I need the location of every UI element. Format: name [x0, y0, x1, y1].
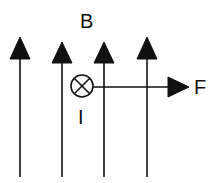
current-into-page-icon	[71, 75, 93, 97]
arrowhead-up-icon	[94, 42, 114, 63]
force-label: F	[194, 76, 206, 98]
field-line	[52, 42, 72, 177]
magnetic-force-diagram: B I F	[0, 0, 214, 183]
arrowhead-right-icon	[168, 77, 189, 97]
force-arrow	[93, 77, 189, 97]
arrowhead-up-icon	[52, 42, 72, 63]
current-label: I	[78, 106, 84, 128]
field-line	[94, 42, 114, 177]
arrowhead-up-icon	[10, 37, 30, 59]
field-line	[10, 37, 30, 177]
field-label: B	[80, 10, 93, 32]
arrowhead-up-icon	[137, 37, 157, 59]
field-line	[137, 37, 157, 177]
